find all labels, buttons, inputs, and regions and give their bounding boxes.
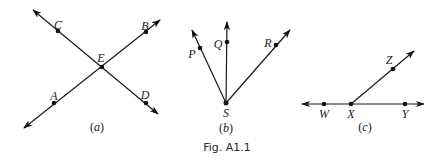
point-q-dot — [225, 40, 230, 45]
point-z-label: Z — [386, 53, 393, 67]
point-w-dot — [322, 102, 327, 107]
point-x-label: X — [346, 107, 355, 121]
panel-b-label: (b) — [219, 121, 233, 135]
point-b-label: B — [141, 19, 149, 33]
point-z-dot — [391, 67, 396, 72]
ray-xz — [351, 51, 414, 104]
point-c-label: C — [54, 18, 63, 32]
point-w-label: W — [319, 107, 330, 121]
point-s-label: S — [223, 106, 229, 120]
panel-a-intersecting-lines: C B E A D (a) — [24, 10, 160, 134]
point-y-label: Y — [402, 107, 410, 121]
point-a-label: A — [49, 89, 58, 103]
figure-canvas: C B E A D (a) P Q R S (b) Z W X Y (c) F — [0, 0, 445, 161]
point-x-dot — [349, 102, 354, 107]
point-e-dot — [100, 65, 105, 70]
panel-b-rays: P Q R S (b) — [187, 22, 290, 135]
panel-a-label: (a) — [90, 120, 104, 134]
ray-sq — [226, 22, 227, 103]
point-y-dot — [403, 102, 408, 107]
point-e-label: E — [96, 51, 105, 65]
point-r-label: R — [263, 36, 272, 50]
point-d-label: D — [140, 88, 150, 102]
figure-caption: Fig. A1.1 — [203, 141, 251, 154]
point-q-label: Q — [214, 37, 223, 51]
point-p-dot — [198, 46, 203, 51]
panel-c-line-and-ray: Z W X Y (c) — [302, 51, 424, 134]
panel-c-label: (c) — [358, 120, 371, 134]
point-s-dot — [224, 101, 229, 106]
ray-sr — [226, 30, 290, 103]
point-p-label: P — [187, 47, 196, 61]
line-ab — [24, 20, 160, 128]
point-r-dot — [274, 43, 279, 48]
